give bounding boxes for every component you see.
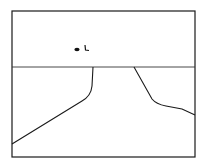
sky-mark-blob [74,48,79,52]
background [0,0,204,167]
sketch-drawing [0,0,204,167]
